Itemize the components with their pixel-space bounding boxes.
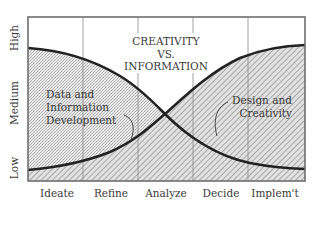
title-line: VS. xyxy=(124,48,208,61)
x-tick-ideate: Ideate xyxy=(40,187,74,199)
series-label-line: Data and xyxy=(46,88,116,101)
information-series-label: Data and Information Development xyxy=(46,88,116,127)
x-tick-implement: Implem't xyxy=(251,187,298,199)
series-label-line: Development xyxy=(46,114,116,127)
y-tick-medium: Medium xyxy=(8,81,20,125)
creativity-series-label: Design and Creativity xyxy=(232,94,292,120)
series-label-line: Information xyxy=(46,101,116,114)
y-tick-low: Low xyxy=(8,157,20,179)
x-tick-decide: Decide xyxy=(203,187,240,199)
title-line: INFORMATION xyxy=(124,60,208,73)
series-label-line: Creativity xyxy=(232,107,292,120)
x-tick-analyze: Analyze xyxy=(145,187,187,199)
chart-title: CREATIVITY VS. INFORMATION xyxy=(124,35,208,73)
y-tick-high: High xyxy=(8,25,20,51)
title-line: CREATIVITY xyxy=(124,35,208,48)
x-tick-refine: Refine xyxy=(94,187,128,199)
series-label-line: Design and xyxy=(232,94,292,107)
